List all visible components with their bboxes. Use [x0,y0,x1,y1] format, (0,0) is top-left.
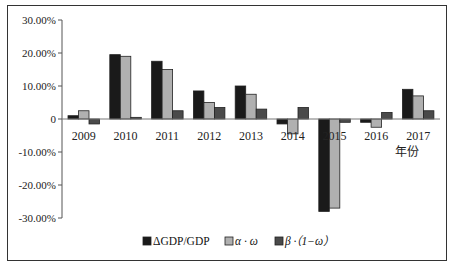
y-tick-label: 20.00% [22,47,56,59]
legend-swatch [275,237,283,245]
bar-2013-series-1 [246,94,257,119]
bar-2011-series-1 [162,70,173,120]
legend-swatch [143,237,151,245]
legend-label: β ·（1−ω） [284,235,334,248]
legend: ΔGDP/GDPα · ωβ ·（1−ω） [143,235,334,248]
x-tick-label: 2016 [364,129,388,143]
bar-2014-series-2 [298,107,309,119]
bar-2010-series-0 [110,55,121,119]
y-tick-label: -20.00% [18,179,56,191]
bar-2012-series-1 [204,103,215,120]
bar-2010-series-1 [120,56,131,119]
x-axis-labels: 200920102011201220132014201520162017 [72,129,430,143]
x-tick-label: 2012 [197,129,221,143]
bar-2012-series-0 [193,91,204,119]
bar-2013-series-0 [235,86,246,119]
bar-2017-series-0 [402,89,413,119]
x-tick-label: 2009 [72,129,96,143]
legend-label: ΔGDP/GDP [153,235,210,247]
bar-2014-series-0 [277,119,288,124]
x-tick-label: 2017 [406,129,430,143]
bar-2013-series-2 [256,109,267,119]
x-tick-label: 2010 [114,129,138,143]
x-axis-title: 年份 [395,145,419,159]
y-tick-label: 0 [51,113,57,125]
bar-2016-series-1 [371,119,382,127]
x-tick-label: 2015 [323,129,347,143]
bar-2009-series-1 [79,111,90,119]
y-tick-label: 30.00% [22,14,56,26]
bar-2011-series-2 [173,111,184,119]
x-tick-label: 2011 [156,129,180,143]
legend-swatch [225,237,233,245]
bar-2017-series-1 [413,96,424,119]
bar-2009-series-2 [89,119,100,124]
y-tick-label: -30.00% [18,212,56,224]
bar-2016-series-2 [382,112,393,119]
bar-chart: 30.00%20.00%10.00%0-10.00%-20.00%-30.00%… [0,0,451,273]
x-tick-label: 2014 [281,129,305,143]
legend-label: α · ω [235,235,258,247]
y-tick-label: 10.00% [22,80,56,92]
bar-2012-series-2 [214,107,225,119]
y-tick-label: -10.00% [18,146,56,158]
bar-2017-series-2 [423,111,434,119]
bar-2011-series-0 [152,61,163,119]
x-tick-label: 2013 [239,129,263,143]
